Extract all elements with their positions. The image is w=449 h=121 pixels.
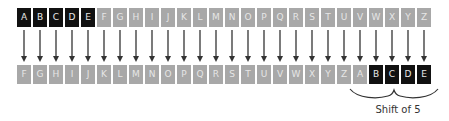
arrow-down-icon (309, 56, 315, 62)
cipher-letter-u: U (257, 65, 271, 84)
cipher-letter-b: B (369, 65, 383, 84)
cipher-letter-o: O (161, 65, 175, 84)
arrow-down-icon (85, 56, 91, 62)
cipher-letter-l: L (113, 65, 127, 84)
arrow-down-icon (293, 56, 299, 62)
cipher-letter-f: F (17, 65, 31, 84)
arrow-down-icon (229, 56, 235, 62)
arrow-down-icon (421, 56, 427, 62)
cipher-letter-i: I (65, 65, 79, 84)
arrow-down-icon (117, 56, 123, 62)
arrow-down-icon (101, 56, 107, 62)
cipher-letter-p: P (177, 65, 191, 84)
cipher-letter-d: D (401, 65, 415, 84)
cipher-letter-t: T (241, 65, 255, 84)
arrow-down-icon (261, 56, 267, 62)
cipher-letter-w: W (289, 65, 303, 84)
cipher-letter-c: C (385, 65, 399, 84)
curly-brace-icon (348, 87, 440, 103)
arrow-down-icon (37, 56, 43, 62)
arrow-down-icon (389, 56, 395, 62)
arrow-down-icon (181, 56, 187, 62)
cipher-letter-g: G (33, 65, 47, 84)
arrow-down-icon (197, 56, 203, 62)
arrow-down-icon (341, 56, 347, 62)
cipher-letter-y: Y (321, 65, 335, 84)
arrow-down-icon (325, 56, 331, 62)
cipher-letter-s: S (225, 65, 239, 84)
cipher-letter-m: M (129, 65, 143, 84)
arrow-down-icon (165, 56, 171, 62)
arrow-down-icon (213, 56, 219, 62)
arrow-down-icon (357, 56, 363, 62)
cipher-letter-v: V (273, 65, 287, 84)
arrow-down-icon (373, 56, 379, 62)
cipher-letter-k: K (97, 65, 111, 84)
cipher-letter-z: Z (337, 65, 351, 84)
cipher-letter-q: Q (193, 65, 207, 84)
arrow-down-icon (21, 56, 27, 62)
arrow-down-icon (405, 56, 411, 62)
arrow-down-icon (133, 56, 139, 62)
arrow-down-icon (69, 56, 75, 62)
arrow-down-icon (149, 56, 155, 62)
cipher-letter-j: J (81, 65, 95, 84)
cipher-letter-r: R (209, 65, 223, 84)
cipher-letter-a: A (353, 65, 367, 84)
cipher-letter-n: N (145, 65, 159, 84)
arrow-down-icon (53, 56, 59, 62)
mapping-arrows (0, 0, 449, 70)
cipher-letter-e: E (417, 65, 431, 84)
cipher-letter-x: X (305, 65, 319, 84)
cipher-letter-h: H (49, 65, 63, 84)
arrow-down-icon (245, 56, 251, 62)
arrow-down-icon (277, 56, 283, 62)
shift-caption: Shift of 5 (358, 104, 438, 115)
